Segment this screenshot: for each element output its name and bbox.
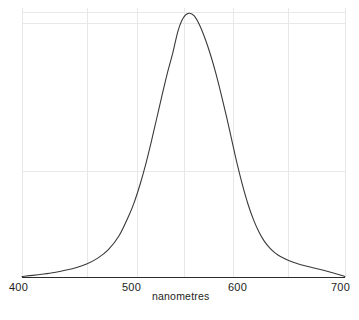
grid-horizontal-lines — [22, 13, 345, 172]
chart-container: 400 500 600 700 nanometres — [0, 0, 359, 320]
grid-lines — [22, 8, 346, 278]
grid-vertical-lines — [23, 8, 346, 278]
x-tick-label-600: 600 — [228, 281, 247, 294]
data-curve-spectral-sensitivity — [22, 13, 345, 276]
x-tick-label-700: 700 — [331, 281, 350, 294]
x-tick-label-400: 400 — [9, 281, 28, 294]
x-tick-label-500: 500 — [122, 281, 141, 294]
spectral-sensitivity-chart — [0, 0, 359, 320]
x-axis-title: nanometres — [152, 290, 209, 303]
